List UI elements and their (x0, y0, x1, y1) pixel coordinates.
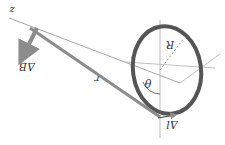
delta-b-arrow (22, 28, 37, 58)
delta-b-label: ΔB (19, 60, 36, 73)
theta-label: θ (145, 78, 152, 91)
radius-label: R (166, 38, 175, 51)
delta-l-label: Δl (166, 118, 179, 131)
ring-field-diagram: z ΔB r R θ Δl (0, 0, 225, 145)
r-label: r (93, 74, 99, 85)
z-label: z (9, 5, 16, 16)
